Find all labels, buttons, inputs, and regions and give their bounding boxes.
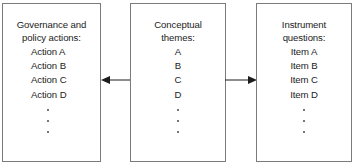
box-themes-title-line1: Conceptual bbox=[131, 18, 225, 31]
ellipsis-dot bbox=[303, 131, 305, 133]
ellipsis-dot bbox=[303, 120, 305, 122]
box-governance-title: Governance and policy actions: bbox=[3, 18, 100, 44]
list-item: A bbox=[131, 45, 225, 59]
connector-themes-to-questions bbox=[225, 74, 257, 86]
ellipsis-dot bbox=[177, 131, 179, 133]
box-themes-vertical-ellipsis-icon bbox=[131, 109, 225, 133]
list-item: Item A bbox=[257, 45, 351, 59]
ellipsis-dot bbox=[177, 109, 179, 111]
box-themes-title-line2: themes: bbox=[131, 31, 225, 44]
ellipsis-dot bbox=[303, 109, 305, 111]
ellipsis-dot bbox=[47, 109, 49, 111]
box-questions-title: Instrument questions: bbox=[257, 18, 351, 44]
list-item: C bbox=[131, 73, 225, 87]
list-item: Item D bbox=[257, 88, 351, 102]
ellipsis-dot bbox=[47, 120, 49, 122]
list-item: Item C bbox=[257, 73, 351, 87]
arrow-left-icon bbox=[101, 74, 131, 86]
ellipsis-dot bbox=[47, 131, 49, 133]
list-item: Action C bbox=[31, 73, 66, 87]
list-item: Action D bbox=[31, 88, 66, 102]
box-questions-title-line1: Instrument bbox=[257, 18, 351, 31]
list-item: Action B bbox=[31, 59, 66, 73]
box-themes-item-list: A B C D bbox=[131, 45, 225, 102]
box-themes-title: Conceptual themes: bbox=[131, 18, 225, 44]
box-questions-item-list: Item A Item B Item C Item D bbox=[257, 45, 351, 102]
list-item: Action A bbox=[31, 45, 66, 59]
list-item: D bbox=[131, 88, 225, 102]
box-conceptual-themes: Conceptual themes: A B C D bbox=[130, 3, 226, 162]
box-instrument-questions: Instrument questions: Item A Item B Item… bbox=[256, 3, 352, 162]
box-questions-title-line2: questions: bbox=[257, 31, 351, 44]
arrow-right-icon bbox=[225, 74, 257, 86]
diagram-canvas: Governance and policy actions: Action A … bbox=[0, 0, 354, 166]
ellipsis-dot bbox=[177, 120, 179, 122]
box-governance-title-line2: policy actions: bbox=[3, 31, 100, 44]
box-governance-policy-actions: Governance and policy actions: Action A … bbox=[2, 3, 101, 162]
box-governance-item-list: Action A Action B Action C Action D bbox=[31, 45, 66, 102]
box-governance-title-line1: Governance and bbox=[3, 18, 100, 31]
connector-themes-to-governance bbox=[101, 74, 131, 86]
list-item: Item B bbox=[257, 59, 351, 73]
list-item: B bbox=[131, 59, 225, 73]
box-governance-vertical-ellipsis-icon bbox=[47, 109, 49, 133]
box-questions-vertical-ellipsis-icon bbox=[257, 109, 351, 133]
